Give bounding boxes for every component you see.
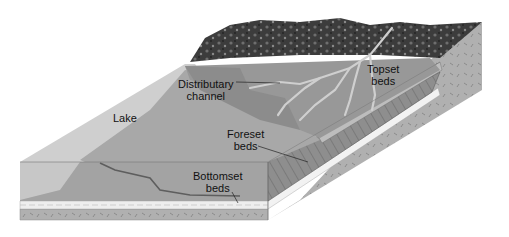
- mountains: [190, 18, 482, 62]
- bedrock-front-face: [20, 209, 268, 220]
- topset-beds-label: Topset beds: [367, 63, 399, 87]
- bottomset-beds-label: Bottomset beds: [193, 170, 243, 194]
- delta-diagram: Lake Distributary channel Topset beds Fo…: [0, 0, 509, 237]
- delta-block-illustration: [0, 0, 509, 237]
- lake-label: Lake: [113, 112, 137, 124]
- distributary-channel-label: Distributary channel: [178, 78, 234, 102]
- foreset-beds-label: Foreset beds: [227, 128, 264, 152]
